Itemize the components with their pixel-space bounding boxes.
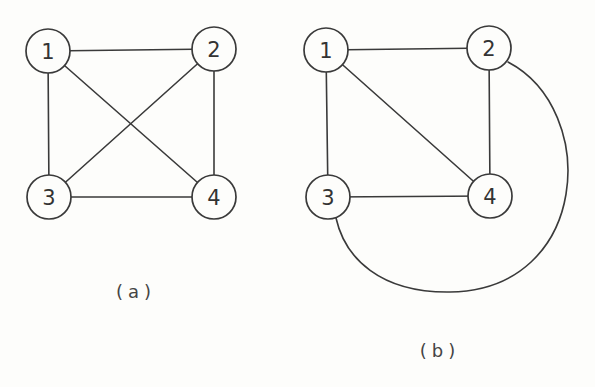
graph-a-complete-k4: 1234 [26,27,236,219]
edge-1-4 [326,50,490,196]
node-label: 4 [207,186,220,210]
edge-2-3 [336,62,568,292]
node-label: 3 [321,186,334,210]
node-label: 2 [207,38,220,62]
node-4: 4 [192,175,236,219]
graph-a-edges [48,49,214,197]
edge-1-2 [48,49,214,51]
node-1: 1 [304,28,348,72]
node-3: 3 [306,175,350,219]
node-label: 4 [483,185,496,209]
node-label: 3 [42,186,55,210]
edge-1-2 [326,48,489,50]
graph-b-planar-k4: 1234 [304,26,568,292]
node-label: 2 [482,37,495,61]
edge-3-4 [328,196,490,197]
graph-b-edges [326,48,568,292]
node-3: 3 [27,175,71,219]
caption-b: (b) [420,340,460,361]
node-label: 1 [41,40,54,64]
caption-a: (a) [116,281,156,302]
node-4: 4 [468,174,512,218]
graph-diagram: 1234 1234 [0,0,595,387]
node-2: 2 [467,26,511,70]
node-label: 1 [319,39,332,63]
node-2: 2 [192,27,236,71]
node-1: 1 [26,29,70,73]
